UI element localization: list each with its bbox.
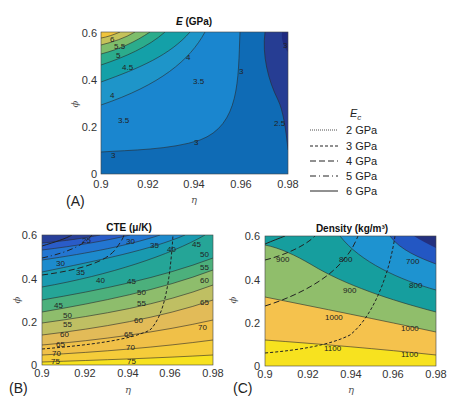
svg-text:4.5: 4.5 [122,63,134,72]
svg-text:3.5: 3.5 [193,77,205,86]
svg-text:60: 60 [200,276,209,285]
panel-b-ylabel: ϕ [11,296,22,303]
panel-a-xlabel: η [191,194,197,205]
svg-text:0.6: 0.6 [22,229,37,241]
svg-text:0: 0 [91,168,97,180]
panel-c-xlabel: η [348,384,354,395]
svg-text:700: 700 [406,257,420,266]
panel-c: Density (kg/m³) 900 800 900 700 800 [227,223,447,396]
panel-a-title: E (GPa) [176,16,212,27]
svg-text:0.2: 0.2 [82,121,97,133]
svg-text:70: 70 [126,343,135,352]
panel-a-x-ticks: 0.9 0.92 0.94 0.96 0.98 [93,178,298,190]
svg-text:4: 4 [186,53,191,62]
svg-text:65: 65 [200,298,209,307]
panel-a-ylabel: ϕ [69,100,80,107]
svg-text:55: 55 [137,299,146,308]
legend-item-5gpa: 5 GPa [310,170,378,182]
svg-text:55: 55 [63,320,72,329]
svg-text:0.92: 0.92 [74,367,95,379]
svg-text:50: 50 [200,250,209,259]
svg-text:75: 75 [51,357,60,366]
svg-text:4: 4 [110,91,115,100]
svg-text:3: 3 [111,151,116,160]
svg-text:0.4: 0.4 [245,274,260,286]
legend-item-4gpa: 4 GPa [310,155,378,167]
svg-text:3.5: 3.5 [118,116,130,125]
svg-text:3: 3 [194,138,199,147]
panel-c-title: Density (kg/m³) [316,223,388,234]
svg-text:35: 35 [76,268,85,277]
svg-text:3: 3 [239,67,244,76]
svg-text:900: 900 [276,255,290,264]
legend-item-6gpa: 6 GPa [310,185,378,197]
svg-text:0.98: 0.98 [202,367,223,379]
svg-text:1100: 1100 [401,350,419,359]
svg-text:2 GPa: 2 GPa [346,124,378,136]
panel-c-x-ticks: 0.9 0.92 0.94 0.96 0.98 [257,368,446,380]
svg-text:0.2: 0.2 [245,317,260,329]
svg-text:30: 30 [56,259,65,268]
svg-text:45: 45 [127,277,136,286]
panel-c-label: (C) [233,380,252,396]
svg-text:70: 70 [198,323,207,332]
figure-canvas: E (GPa) 6 5.5 [0,0,460,408]
svg-text:4 GPa: 4 GPa [346,155,378,167]
svg-text:30: 30 [126,237,135,246]
svg-text:25: 25 [82,236,91,245]
svg-text:5.5: 5.5 [114,42,126,51]
legend-item-2gpa: 2 GPa [310,124,378,136]
svg-text:2.5: 2.5 [274,119,286,128]
svg-text:3 GPa: 3 GPa [346,140,378,152]
panel-a-y-ticks: 0 0.2 0.4 0.6 [82,27,97,180]
panel-a: E (GPa) 6 5.5 [66,16,299,209]
svg-text:0.6: 0.6 [245,230,260,242]
svg-text:50: 50 [137,288,146,297]
svg-text:900: 900 [343,286,357,295]
svg-text:0.2: 0.2 [22,316,37,328]
panel-b-title: CTE (μ/K) [106,222,152,233]
panel-b-x-ticks: 0.9 0.92 0.94 0.96 0.98 [34,367,223,379]
svg-text:75: 75 [127,357,136,366]
svg-text:0.94: 0.94 [117,367,138,379]
svg-text:45: 45 [54,301,63,310]
legend-title: Ec [350,107,361,122]
svg-text:3: 3 [283,41,288,50]
svg-text:0.96: 0.96 [159,367,180,379]
svg-text:0: 0 [254,360,260,372]
panel-a-contour-fill [101,32,288,174]
svg-text:45: 45 [192,240,201,249]
svg-text:800: 800 [339,255,353,264]
svg-text:1100: 1100 [324,344,342,353]
svg-text:0.98: 0.98 [277,178,298,190]
svg-text:1000: 1000 [325,313,343,322]
svg-text:5: 5 [116,51,121,60]
svg-text:0.92: 0.92 [297,368,318,380]
svg-text:40: 40 [96,276,105,285]
panel-b-xlabel: η [125,384,131,395]
svg-text:0.4: 0.4 [22,273,37,285]
panel-c-ylabel: ϕ [227,296,238,303]
svg-text:60: 60 [60,330,69,339]
panel-b-label: (B) [9,380,28,396]
svg-text:0.6: 0.6 [82,27,97,39]
svg-text:60: 60 [134,316,143,325]
svg-text:0: 0 [31,359,37,371]
svg-text:1000: 1000 [401,324,419,333]
svg-text:0.94: 0.94 [340,368,361,380]
svg-text:800: 800 [409,281,423,290]
panel-b-y-ticks: 0 0.2 0.4 0.6 [22,229,37,371]
svg-text:65: 65 [56,340,65,349]
svg-text:0.92: 0.92 [137,178,158,190]
svg-text:0.4: 0.4 [82,74,97,86]
svg-text:0.98: 0.98 [425,368,446,380]
legend-item-3gpa: 3 GPa [310,140,378,152]
panel-c-y-ticks: 0 0.2 0.4 0.6 [245,230,260,372]
svg-text:0.96: 0.96 [382,368,403,380]
svg-text:0.96: 0.96 [230,178,251,190]
svg-text:55: 55 [200,263,209,272]
ec-legend: Ec 2 GPa 3 GPa 4 GPa 5 GPa 6 GPa [310,107,378,197]
svg-text:35: 35 [150,241,159,250]
svg-text:40: 40 [167,245,176,254]
svg-text:5 GPa: 5 GPa [346,170,378,182]
